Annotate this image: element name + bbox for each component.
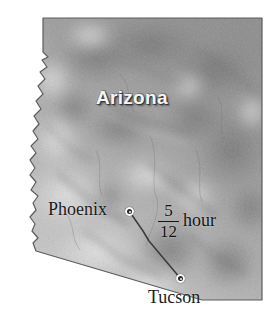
city-dot-icon-tucson [176, 274, 185, 283]
travel-time-fraction: 5 12 [158, 202, 179, 240]
city-label-phoenix: Phoenix [48, 200, 107, 218]
map-figure: Arizona Phoenix Tucson 5 12 hour [0, 0, 269, 335]
city-label-tucson: Tucson [148, 288, 200, 306]
fraction-numerator: 5 [162, 202, 175, 220]
city-dot-icon-phoenix [125, 207, 134, 216]
travel-time-annotation: 5 12 hour [158, 202, 216, 240]
fraction-denominator: 12 [158, 223, 179, 241]
travel-time-unit: hour [183, 210, 216, 232]
state-name-label: Arizona [96, 88, 168, 107]
arizona-map-graphic [0, 0, 269, 335]
